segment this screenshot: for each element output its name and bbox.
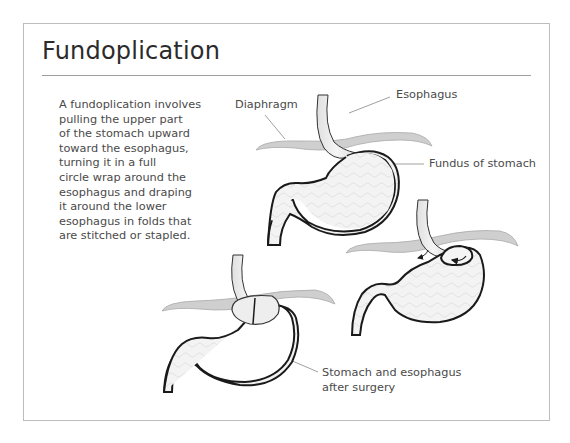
illustration <box>0 0 570 443</box>
stomach-after <box>162 255 335 392</box>
diaphragm-shape <box>256 133 432 151</box>
leader-after-surgery <box>290 360 318 372</box>
leader-diaphragm <box>265 115 285 139</box>
fundus-wrap <box>441 246 472 265</box>
leader-esophagus <box>349 97 390 113</box>
stomach-before <box>256 95 432 245</box>
wrap-arrow-back-icon <box>418 250 428 258</box>
